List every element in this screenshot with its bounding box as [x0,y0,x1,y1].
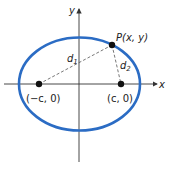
focus-left-label: (−c, 0) [26,93,60,104]
d2-label: d2 [120,60,131,73]
point-p-label: P(x, y) [116,32,148,43]
x-axis-label: x [158,79,165,90]
focus-right-label: (c, 0) [107,93,133,104]
point-p [109,42,115,48]
focus-right-point [118,81,124,87]
ellipse-diagram: y x P(x, y) d1 d2 (−c, 0) (c, 0) [0,0,176,171]
focus-left-point [36,81,42,87]
d1-label: d1 [67,53,78,66]
y-axis-label: y [68,5,76,16]
